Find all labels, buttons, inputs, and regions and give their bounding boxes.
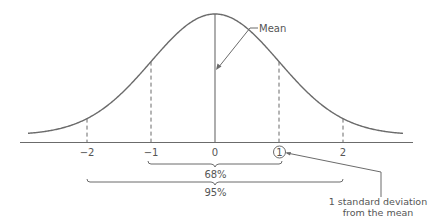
sd-callout-leader [287, 153, 381, 197]
normal-distribution-diagram: Mean −2 −1 0 1 2 68% 95% 1 standard devi… [0, 0, 439, 223]
tick-label-0: 0 [212, 147, 218, 158]
tick-label-1: 1 [276, 147, 282, 158]
label-68-percent: 68% [204, 169, 226, 180]
sd-callout-arrowhead-icon [285, 152, 291, 156]
brace-68 [148, 161, 282, 167]
brace-95 [87, 179, 343, 185]
tick-label-2: 2 [340, 147, 346, 158]
sd-callout-line2: from the mean [343, 207, 414, 218]
mean-label: Mean [259, 23, 286, 34]
mean-arrow [218, 28, 250, 68]
tick-label-minus-1: −1 [144, 147, 159, 158]
tick-label-minus-2: −2 [80, 147, 95, 158]
label-95-percent: 95% [204, 187, 226, 198]
sd-callout-line1: 1 standard deviation [329, 196, 427, 207]
